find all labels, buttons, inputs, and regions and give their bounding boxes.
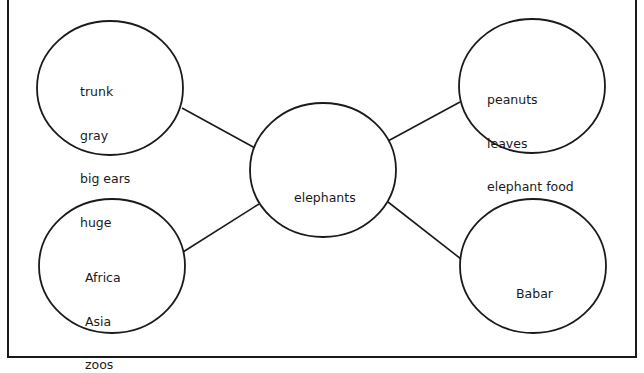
node-text-line: leaves [487,137,574,152]
node-text-line: Africa [85,271,121,286]
node-text-line: Asia [85,315,121,330]
edge-center-characteristics [182,108,255,148]
node-habitat-label: Africa Asia zoos [85,242,121,373]
node-food-label: peanuts leaves elephant food [487,64,574,209]
node-text-line: huge [80,216,130,231]
node-text-line: peanuts [487,93,574,108]
edge-center-habitat [183,204,259,252]
node-text-line: big ears [80,172,130,187]
node-text-line: zoos [85,358,121,373]
node-characteristics-label: trunk gray big ears huge [80,56,130,245]
node-stories-label: Babar [516,258,553,316]
center-node-label: elephants [294,162,356,220]
node-text-line: Babar [516,287,553,302]
node-text-line: trunk [80,85,130,100]
edge-center-stories [388,202,461,259]
center-text: elephants [294,191,356,206]
node-text-line: elephant food [487,180,574,195]
node-text-line: gray [80,129,130,144]
edge-center-food [388,102,460,141]
